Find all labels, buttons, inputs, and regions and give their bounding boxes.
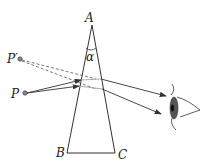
emergent-ray-1 xyxy=(101,79,166,96)
image-point xyxy=(18,57,22,61)
prism-diagram: A B C α P′ P xyxy=(0,0,215,168)
label-p-prime: P′ xyxy=(6,52,18,66)
label-c: C xyxy=(118,148,127,162)
label-a: A xyxy=(84,11,94,25)
label-b: B xyxy=(55,146,65,160)
label-p: P xyxy=(10,87,20,101)
label-alpha: α xyxy=(86,50,94,64)
eye-icon xyxy=(170,84,200,130)
object-point xyxy=(23,91,27,95)
prism xyxy=(67,25,115,153)
virtual-ray-2 xyxy=(22,61,96,89)
internal-ray-1 xyxy=(81,79,101,80)
internal-ray-2 xyxy=(79,86,102,89)
